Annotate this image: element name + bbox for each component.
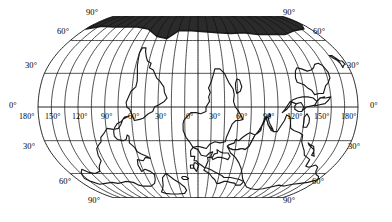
latitude-label-right-0: 90°: [283, 8, 295, 17]
longitude-label-7: 30°: [209, 113, 221, 121]
longitude-label-8: 60°: [236, 113, 248, 121]
latitude-label-right-4: 30°: [348, 142, 360, 151]
longitude-label-4: 60°: [128, 113, 140, 121]
latitude-label-left-1: 60°: [57, 27, 69, 36]
world-map-figure: 90°60°30°0°30°60°90° 90°60°30°0°30°60°90…: [0, 0, 392, 222]
latitude-label-right-6: 90°: [283, 196, 295, 205]
longitude-label-1: 150°: [45, 113, 61, 121]
longitude-label-6: 0°: [186, 113, 193, 121]
latitude-label-right-5: 60°: [312, 177, 324, 186]
latitude-label-left-2: 30°: [25, 61, 37, 70]
longitude-label-3: 90°: [101, 113, 113, 121]
latitude-label-left-6: 90°: [88, 196, 100, 205]
coastline-ireland: [190, 165, 193, 168]
latitude-label-right-2: 30°: [347, 61, 359, 70]
longitude-label-12: 180°: [341, 113, 357, 121]
longitude-label-10: 120°: [287, 113, 303, 121]
longitude-label-0: 180°: [19, 113, 35, 121]
latitude-label-left-3: 0°: [9, 101, 17, 110]
longitude-label-2: 120°: [72, 113, 88, 121]
latitude-label-left-5: 60°: [59, 177, 71, 186]
latitude-label-left-0: 90°: [86, 8, 98, 17]
latitude-label-right-1: 60°: [313, 27, 325, 36]
longitude-label-11: 150°: [314, 113, 330, 121]
latitude-label-right-3: 0°: [370, 101, 378, 110]
latitude-label-left-4: 30°: [23, 142, 35, 151]
longitude-label-5: 30°: [155, 113, 167, 121]
longitude-label-9: 90°: [263, 113, 275, 121]
